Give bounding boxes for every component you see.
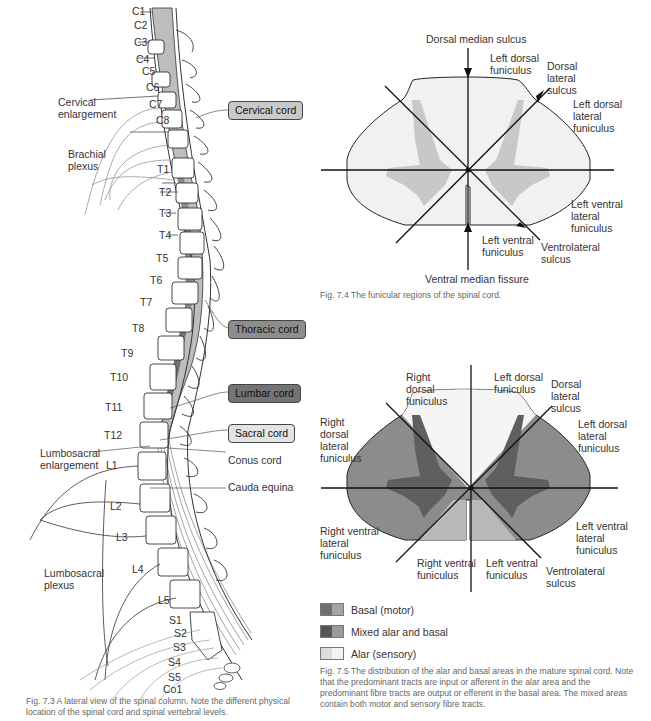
dorsal-lateral-sulcus-label-2: Dorsal lateral sulcus (551, 378, 611, 414)
figure-7-3-caption: Fig. 7.3 A lateral view of the spinal co… (26, 696, 316, 718)
left-ventral-lateral-funiculus-label-2: Left ventral lateral funiculus (576, 520, 636, 556)
legend-item-mixed: Mixed alar and basal (320, 625, 448, 638)
nerve-label-s4: S4 (168, 656, 181, 668)
right-dorsal-funiculus-label: Right dorsal funiculus (406, 371, 456, 407)
right-ventral-funiculus-label: Right ventral funiculus (417, 557, 477, 581)
nerve-label-s5: S5 (168, 671, 181, 683)
right-dorsal-lateral-funiculus-label: Right dorsal lateral funiculus (320, 416, 370, 464)
alar-basal-diagram (0, 0, 651, 600)
alar-swatch (320, 647, 344, 660)
left-dorsal-funiculus-label-2: Left dorsal funiculus (494, 371, 544, 395)
ventrolateral-sulcus-label-2: Ventrolateral sulcus (546, 565, 606, 589)
figure-7-5-caption: Fig. 7.5 The distribution of the alar an… (320, 666, 640, 710)
left-dorsal-lateral-funiculus-label-2: Left dorsal lateral funiculus (578, 418, 628, 454)
legend-label-mixed: Mixed alar and basal (351, 626, 448, 638)
right-ventral-lateral-funiculus-label: Right ventral lateral funiculus (320, 525, 380, 561)
legend-label-alar: Alar (sensory) (351, 648, 416, 660)
nerve-label-co1: Co1 (163, 683, 182, 695)
legend-label-basal: Basal (motor) (351, 604, 414, 616)
basal-swatch (320, 603, 344, 616)
nerve-label-s2: S2 (174, 627, 187, 639)
nerve-label-s3: S3 (173, 641, 186, 653)
legend-item-alar: Alar (sensory) (320, 647, 416, 660)
mixed-swatch (320, 625, 344, 638)
legend-item-basal: Basal (motor) (320, 603, 414, 616)
left-ventral-funiculus-label-2: Left ventral funiculus (486, 557, 546, 581)
nerve-label-s1: S1 (169, 614, 182, 626)
